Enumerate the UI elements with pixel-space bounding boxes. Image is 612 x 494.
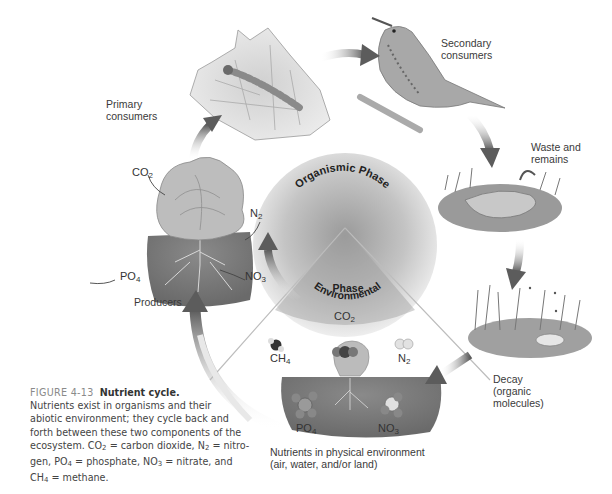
label-line: consumers (441, 49, 492, 61)
co2-producer-label: CO2 (132, 166, 153, 180)
po4-producer-label: PO4 (120, 270, 140, 284)
organismic-phase-label: Organismic Phase (292, 161, 392, 190)
label-line: Decay (493, 373, 544, 385)
figure-number: FIGURE 4-13 (30, 387, 94, 398)
environmental-phase-line2: Phase (318, 282, 378, 294)
caption-line: gen, PO4 = phosphate, NO3 = nitrate, and (30, 455, 250, 471)
ch4-environment-label: CH4 (270, 352, 290, 366)
figure-caption: FIGURE 4-13 Nutrient cycle. Nutrients ex… (30, 386, 250, 487)
label-line: consumers (106, 110, 157, 122)
no3-environment-label: NO3 (378, 422, 399, 436)
co2-environment-label: CO2 (334, 310, 355, 324)
label-line: remains (531, 153, 581, 165)
figure-title: Nutrient cycle. (100, 387, 180, 398)
caption-line: Nutrients exist in organisms and their (30, 399, 250, 412)
caption-line: CH4 = methane. (30, 471, 250, 487)
label-line: Secondary (441, 37, 492, 49)
label-line: Producers (134, 296, 182, 308)
no3-producer-label: NO3 (245, 270, 266, 284)
label-line: Primary (106, 98, 157, 110)
caption-title-line: FIGURE 4-13 Nutrient cycle. (30, 386, 250, 399)
waste-remains-label: Waste and remains (531, 141, 581, 165)
label-line: (organic (493, 385, 544, 397)
primary-consumers-label: Primary consumers (106, 98, 157, 122)
environment-label: Nutrients in physical environment (air, … (270, 446, 425, 470)
label-line: (air, water, and/or land) (270, 458, 425, 470)
caption-line: forth between these two components of th… (30, 426, 250, 439)
label-line: Waste and (531, 141, 581, 153)
caption-line: abiotic environment; they cycle back and (30, 412, 250, 425)
po4-environment-label: PO4 (296, 422, 316, 436)
producers-label: Producers (134, 296, 182, 308)
label-line: Nutrients in physical environment (270, 446, 425, 458)
label-line: molecules) (493, 397, 544, 409)
decay-label: Decay (organic molecules) (493, 373, 544, 409)
secondary-consumers-label: Secondary consumers (441, 37, 492, 61)
n2-environment-label: N2 (398, 352, 410, 366)
caption-line: ecosystem. CO2 = carbon dioxide, N2 = ni… (30, 439, 250, 455)
n2-producer-label: N2 (250, 207, 262, 221)
